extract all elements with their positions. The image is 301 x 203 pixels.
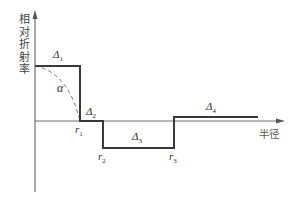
alpha-label: α xyxy=(57,81,63,96)
r2-label: r2 xyxy=(98,150,106,165)
r3-label: r3 xyxy=(169,150,177,165)
x-axis-arrow-icon xyxy=(276,119,285,124)
delta1-label: Δ1 xyxy=(53,48,63,63)
r1-label: r1 xyxy=(75,123,83,138)
x-axis-label: 半径 xyxy=(259,126,279,141)
y-axis-arrow-icon xyxy=(33,10,38,19)
delta3-label: Δ3 xyxy=(132,130,142,145)
refractive-index-profile-diagram xyxy=(0,0,301,203)
step-profile-line xyxy=(35,66,258,148)
delta2-label: Δ2 xyxy=(86,105,96,120)
delta4-label: Δ4 xyxy=(206,100,216,115)
y-axis-label: 相对折射率 xyxy=(17,14,31,77)
